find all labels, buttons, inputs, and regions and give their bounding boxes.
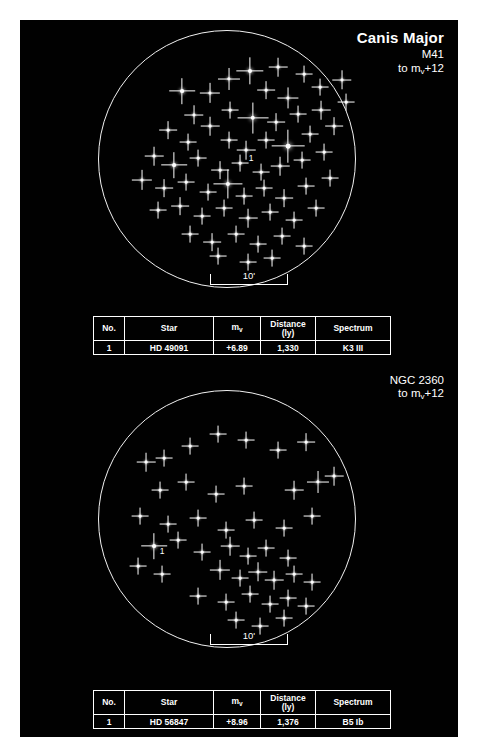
star-spike-vertical bbox=[162, 566, 163, 583]
star-spike-vertical bbox=[158, 202, 159, 219]
star-spike-vertical bbox=[294, 566, 295, 583]
star-spike-vertical bbox=[140, 508, 141, 525]
star-spike-vertical bbox=[218, 248, 219, 265]
scale-bar-m41: 10' bbox=[210, 272, 288, 287]
star-spike-vertical bbox=[288, 590, 289, 607]
star-spike-vertical bbox=[244, 188, 245, 205]
scale-tick-left bbox=[210, 634, 211, 645]
star-spike-vertical bbox=[188, 134, 189, 151]
star-spike-vertical bbox=[318, 471, 319, 493]
star-spike-vertical bbox=[190, 226, 191, 243]
star-spike-vertical bbox=[210, 83, 211, 103]
cell-no: 1 bbox=[94, 715, 125, 729]
star-spike-vertical bbox=[246, 141, 247, 160]
header-mv-subscript: v bbox=[239, 700, 243, 707]
star-spike-vertical bbox=[334, 117, 335, 135]
star-spike-vertical bbox=[249, 57, 250, 84]
star-spike-vertical bbox=[164, 179, 165, 197]
star-spike-vertical bbox=[312, 574, 313, 591]
star-spike-vertical bbox=[226, 594, 227, 611]
star-spike-vertical bbox=[190, 438, 191, 455]
star-spike-vertical bbox=[154, 147, 155, 166]
star-spike-vertical bbox=[236, 612, 237, 629]
star-spike-vertical bbox=[208, 184, 209, 201]
star-spike-vertical bbox=[194, 105, 195, 124]
star-spike-vertical bbox=[306, 433, 307, 451]
field-of-view-m41: 1 bbox=[98, 30, 360, 292]
star-spike-vertical bbox=[306, 598, 307, 615]
star-spike-vertical bbox=[246, 432, 247, 449]
star-spike-vertical bbox=[240, 155, 241, 172]
scale-tick-right bbox=[287, 274, 288, 285]
star-spike-vertical bbox=[198, 150, 199, 167]
star-spike-vertical bbox=[288, 550, 289, 567]
star-spike-vertical bbox=[274, 571, 275, 590]
star-spike-vertical bbox=[287, 130, 288, 163]
header-magnitude: mv bbox=[214, 691, 261, 715]
limiting-magnitude-label: to mv+12 bbox=[357, 62, 444, 77]
star-spike-vertical bbox=[178, 532, 179, 549]
star-spike-vertical bbox=[229, 68, 230, 90]
star-spike-vertical bbox=[198, 510, 199, 527]
header-spectrum: Spectrum bbox=[316, 317, 391, 341]
chart-panel: Canis Major M41 to mv+12 1 10' No. bbox=[20, 20, 458, 737]
star-spike-vertical bbox=[180, 197, 181, 215]
star-spike-vertical bbox=[160, 482, 161, 499]
star-spike-vertical bbox=[186, 174, 187, 191]
scale-bar-label: 10' bbox=[210, 630, 288, 642]
scale-tick-right bbox=[287, 634, 288, 645]
star-spike-vertical bbox=[240, 570, 241, 587]
star-spike-vertical bbox=[202, 544, 203, 561]
star-spike-vertical bbox=[310, 126, 311, 143]
star-spike-vertical bbox=[220, 161, 221, 179]
chart-title-m41: Canis Major M41 to mv+12 bbox=[357, 30, 444, 76]
star-spike-vertical bbox=[181, 78, 182, 104]
header-magnitude: mv bbox=[214, 317, 261, 341]
scale-bar-ngc2360: 10' bbox=[210, 632, 288, 647]
table-row: 1 HD 56847 +8.96 1,376 B5 Ib bbox=[94, 715, 391, 729]
star-spike-vertical bbox=[306, 178, 307, 195]
star-spike-vertical bbox=[142, 170, 143, 190]
star-spike-vertical bbox=[248, 209, 249, 228]
header-mv-symbol: m bbox=[231, 322, 239, 332]
header-distance-unit: (ly) bbox=[261, 329, 315, 338]
star-spike-vertical bbox=[236, 226, 237, 243]
star-spike-vertical bbox=[266, 132, 267, 149]
header-distance: Distance(ly) bbox=[261, 691, 316, 715]
star-spike-vertical bbox=[210, 117, 211, 136]
object-name: NGC 2360 bbox=[390, 374, 444, 386]
cell-magnitude: +8.96 bbox=[214, 715, 261, 729]
star-spike-vertical bbox=[146, 453, 147, 472]
star-index-label: 1 bbox=[249, 153, 254, 163]
chart-title-ngc2360: NGC 2360 to mv+12 bbox=[390, 374, 444, 402]
starfield-m41: 1 bbox=[98, 30, 360, 292]
chart-block-m41: Canis Major M41 to mv+12 1 10' No. bbox=[20, 20, 458, 360]
limit-suffix: +12 bbox=[424, 387, 444, 399]
data-table-wrap-ngc2360: No. Star mv Distance(ly) Spectrum 1 HD 5… bbox=[93, 690, 385, 729]
star-spike-vertical bbox=[229, 132, 230, 149]
limit-prefix: to m bbox=[398, 387, 420, 399]
star-spike-vertical bbox=[164, 450, 165, 467]
star-spike-vertical bbox=[342, 70, 343, 89]
star-spike-vertical bbox=[248, 254, 249, 271]
star-spike-vertical bbox=[218, 426, 219, 443]
header-mv-symbol: m bbox=[231, 696, 239, 706]
scale-bar-label: 10' bbox=[210, 270, 288, 282]
star-spike-vertical bbox=[220, 560, 221, 580]
star-spike-vertical bbox=[284, 520, 285, 537]
star-spike-vertical bbox=[226, 522, 227, 539]
star-spike-vertical bbox=[261, 164, 262, 181]
star-spike-vertical bbox=[186, 474, 187, 491]
object-name: M41 bbox=[357, 48, 444, 60]
star-spike-vertical bbox=[280, 157, 281, 176]
scale-tick-left bbox=[210, 274, 211, 285]
star-spike-vertical bbox=[258, 562, 259, 581]
field-of-view-ngc2360: 1 bbox=[98, 390, 360, 652]
scale-bar-line bbox=[210, 284, 288, 285]
star-spike-vertical bbox=[198, 588, 199, 605]
star-spike-vertical bbox=[304, 66, 305, 83]
star-spike-vertical bbox=[250, 586, 251, 603]
star-spike-vertical bbox=[278, 442, 279, 459]
header-star: Star bbox=[125, 691, 214, 715]
star-spike-vertical bbox=[330, 170, 331, 187]
